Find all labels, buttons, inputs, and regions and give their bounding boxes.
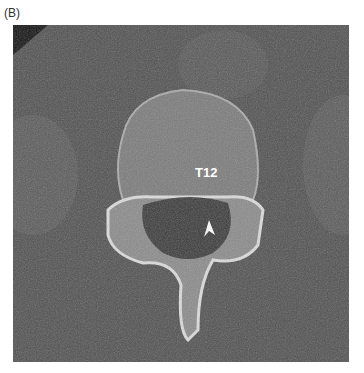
vertebra-label: T12	[195, 165, 217, 180]
panel-label: (B)	[4, 6, 20, 20]
ct-scan-image: T12	[13, 25, 349, 362]
ct-scan-graphic	[13, 25, 349, 362]
